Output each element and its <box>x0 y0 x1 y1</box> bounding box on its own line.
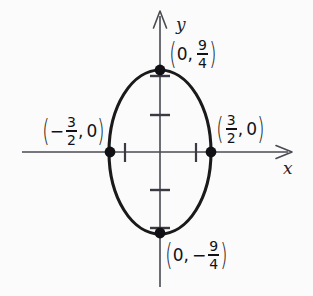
paren-open: ( <box>169 42 176 67</box>
point-left-vertex <box>105 147 116 158</box>
label-right-fraction: 3 2 <box>226 113 237 145</box>
paren-close: ) <box>220 243 227 268</box>
label-bottom-x-value: 0 <box>173 247 184 264</box>
label-left-y-value: 0 <box>86 123 97 140</box>
paren-close: ) <box>209 42 216 67</box>
fraction-numerator: 3 <box>66 115 77 130</box>
label-left-minus: − <box>50 123 64 140</box>
fraction-numerator: 3 <box>226 113 237 128</box>
label-right-comma: , <box>238 121 243 138</box>
x-axis-label: x <box>283 160 293 177</box>
ellipse-graph-figure: y x ( 0 , 9 4 ) ( − 3 2 , 0 ) ( 3 2 <box>0 0 313 296</box>
label-top-comma: , <box>188 46 193 63</box>
paren-close: ) <box>97 119 104 144</box>
fraction-denominator: 2 <box>226 130 237 145</box>
y-axis-label: y <box>176 16 186 33</box>
point-bottom-vertex <box>155 228 166 239</box>
label-bottom-vertex: ( 0 , − 9 4 ) <box>163 239 230 271</box>
label-left-fraction: 3 2 <box>66 115 77 147</box>
label-bottom-fraction: 9 4 <box>208 239 219 271</box>
paren-open: ( <box>165 243 172 268</box>
label-top-vertex: ( 0 , 9 4 ) <box>167 38 219 70</box>
paren-close: ) <box>257 117 264 142</box>
label-bottom-comma: , <box>184 247 189 264</box>
label-bottom-minus: − <box>192 247 206 264</box>
label-left-comma: , <box>78 123 83 140</box>
paren-open: ( <box>42 119 49 144</box>
label-top-fraction: 9 4 <box>197 38 208 70</box>
fraction-denominator: 2 <box>66 132 77 147</box>
fraction-numerator: 9 <box>208 239 219 254</box>
point-right-vertex <box>206 147 217 158</box>
fraction-denominator: 4 <box>197 55 208 70</box>
plot-canvas <box>0 0 313 296</box>
label-top-x-value: 0 <box>177 46 188 63</box>
point-top-vertex <box>155 65 166 76</box>
label-right-y-value: 0 <box>246 121 257 138</box>
label-left-vertex: ( − 3 2 , 0 ) <box>40 115 107 147</box>
fraction-denominator: 4 <box>208 256 219 271</box>
fraction-numerator: 9 <box>197 38 208 53</box>
label-right-vertex: ( 3 2 , 0 ) <box>214 113 267 145</box>
paren-open: ( <box>216 117 223 142</box>
